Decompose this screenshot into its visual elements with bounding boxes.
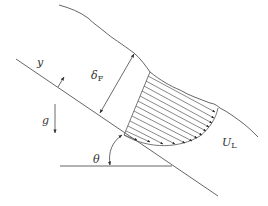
angle-label: θ <box>93 153 100 166</box>
y-direction-arrow <box>58 77 64 87</box>
velocity-profile-curve <box>124 108 218 146</box>
film-thickness-arrow <box>100 54 134 113</box>
velocity-label: UL <box>222 136 237 150</box>
angle-arc <box>110 135 123 165</box>
y-axis-label: y <box>36 56 44 69</box>
gravity-label: g <box>42 114 49 127</box>
film-thickness-label: δF <box>91 69 104 83</box>
falling-film-diagram: y δF g θ UL <box>0 0 268 206</box>
velocity-arrows <box>124 76 215 144</box>
film-free-surface <box>59 5 258 137</box>
